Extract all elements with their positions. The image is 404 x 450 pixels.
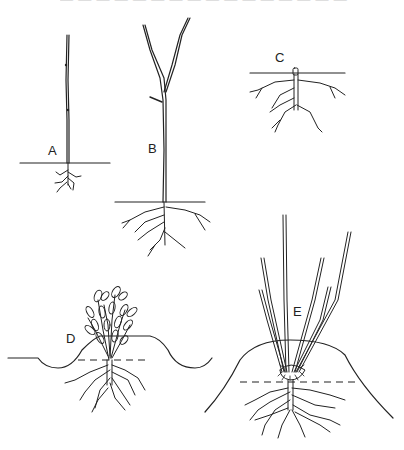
leafy-shoots-d [83,285,138,360]
soil-mound-e [205,340,393,418]
figure-c: C [250,50,345,132]
figure-e: E [205,215,393,438]
label-a: A [48,143,57,158]
label-c: C [275,50,284,65]
label-b: B [148,141,157,156]
figure-b: B [115,18,210,256]
figure-d: D [8,285,212,412]
label-d: D [66,331,75,346]
figure-a: A [20,35,110,192]
layering-diagram: A B C [0,0,404,450]
label-e: E [293,304,302,319]
